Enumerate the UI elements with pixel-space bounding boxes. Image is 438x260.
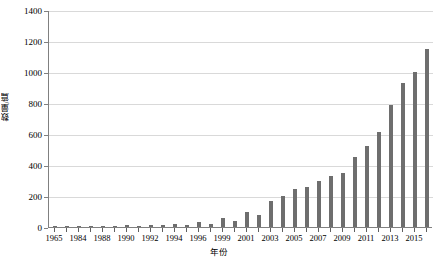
bar <box>389 105 393 227</box>
x-axis-tick <box>186 228 187 232</box>
y-axis-labels: 0200400600800100012001400 <box>0 11 42 228</box>
y-axis-tick <box>44 11 48 12</box>
bar <box>425 49 429 227</box>
bar <box>377 132 381 227</box>
bar <box>245 212 249 227</box>
bar <box>77 226 81 227</box>
y-axis-tick <box>44 73 48 74</box>
x-axis-tick <box>258 228 259 232</box>
bar <box>137 226 141 227</box>
y-axis-tick-label: 800 <box>4 99 42 109</box>
x-axis-tick <box>366 228 367 232</box>
bar <box>173 224 177 227</box>
bar <box>101 226 105 227</box>
x-axis-tick <box>102 228 103 232</box>
x-axis-tick-label: 2007 <box>310 233 327 243</box>
bar <box>317 181 321 228</box>
gridline <box>49 135 433 136</box>
x-axis-tick <box>174 228 175 232</box>
bar <box>401 83 405 227</box>
x-axis-tick <box>54 228 55 232</box>
x-axis-tick <box>78 228 79 232</box>
x-axis-tick <box>66 228 67 232</box>
y-axis-tick <box>44 197 48 198</box>
x-axis-tick <box>126 228 127 232</box>
y-axis-tick-label: 400 <box>4 161 42 171</box>
bar <box>365 146 369 227</box>
x-axis-tick <box>114 228 115 232</box>
bar <box>269 201 273 227</box>
bar-chart: 数量/篇 0200400600800100012001400 年份 196519… <box>0 0 438 260</box>
bar <box>353 157 357 227</box>
x-axis-tick <box>378 228 379 232</box>
bar <box>257 215 261 227</box>
bar <box>329 176 333 227</box>
gridline <box>49 11 433 12</box>
y-axis-tick <box>44 42 48 43</box>
bar <box>53 226 57 227</box>
bar <box>413 72 417 227</box>
y-axis-tick <box>44 166 48 167</box>
gridline <box>49 104 433 105</box>
bar <box>125 225 129 227</box>
x-axis-tick <box>210 228 211 232</box>
bar <box>113 226 117 227</box>
x-axis-tick <box>234 228 235 232</box>
y-axis-tick-label: 0 <box>4 223 42 233</box>
x-axis-tick-label: 2003 <box>262 233 279 243</box>
y-axis-tick <box>44 104 48 105</box>
bar <box>197 222 201 227</box>
y-axis-tick-label: 1400 <box>4 6 42 16</box>
bar <box>65 226 69 227</box>
bar <box>305 187 309 227</box>
x-axis-tick-label: 2015 <box>406 233 423 243</box>
x-axis-tick <box>162 228 163 232</box>
x-axis-tick <box>390 228 391 232</box>
x-axis-tick <box>198 228 199 232</box>
bar <box>185 225 189 227</box>
gridline <box>49 73 433 74</box>
x-axis-tick-label: 1996 <box>190 233 207 243</box>
bar <box>233 221 237 227</box>
bar <box>209 224 213 227</box>
plot-area <box>48 11 432 228</box>
x-axis-tick-label: 2005 <box>286 233 303 243</box>
x-axis-tick <box>270 228 271 232</box>
bar <box>221 218 225 227</box>
y-axis-tick-label: 1200 <box>4 37 42 47</box>
x-axis-tick-label: 1988 <box>94 233 111 243</box>
x-axis-tick <box>414 228 415 232</box>
x-axis-tick <box>246 228 247 232</box>
gridline <box>49 197 433 198</box>
x-axis-tick <box>426 228 427 232</box>
x-axis-tick <box>306 228 307 232</box>
y-axis-tick-label: 1000 <box>4 68 42 78</box>
x-axis-title: 年份 <box>0 245 438 257</box>
x-axis-tick <box>318 228 319 232</box>
x-axis-tick-label: 2011 <box>358 233 375 243</box>
x-axis-tick-label: 1994 <box>166 233 183 243</box>
x-axis-tick-label: 1965 <box>46 233 63 243</box>
x-axis-tick <box>402 228 403 232</box>
x-axis-tick <box>138 228 139 232</box>
x-axis-tick-label: 2013 <box>382 233 399 243</box>
bar <box>149 225 153 227</box>
x-axis-tick <box>150 228 151 232</box>
x-axis-tick-label: 1984 <box>70 233 87 243</box>
x-axis-tick <box>342 228 343 232</box>
y-axis-tick-label: 600 <box>4 130 42 140</box>
bar <box>89 226 93 227</box>
y-axis-tick-label: 200 <box>4 192 42 202</box>
y-axis-tick <box>44 228 48 229</box>
bar <box>161 225 165 227</box>
x-axis-tick <box>90 228 91 232</box>
x-axis-tick <box>282 228 283 232</box>
x-axis-tick <box>330 228 331 232</box>
y-axis-tick <box>44 135 48 136</box>
x-axis-tick-label: 1992 <box>142 233 159 243</box>
bar <box>293 189 297 227</box>
x-axis-tick-label: 2001 <box>238 233 255 243</box>
x-axis-tick-label: 2009 <box>334 233 351 243</box>
gridline <box>49 166 433 167</box>
x-axis-tick-label: 1999 <box>214 233 231 243</box>
